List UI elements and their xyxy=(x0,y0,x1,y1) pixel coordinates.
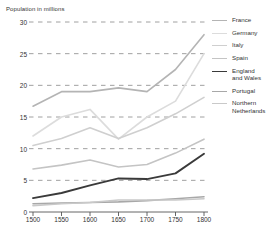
x-axis-tick-label: 1550 xyxy=(54,216,68,223)
legend-item[interactable]: Portugal xyxy=(212,87,280,94)
legend-item[interactable]: France xyxy=(212,16,280,23)
legend-swatch-line-icon xyxy=(212,45,227,46)
y-axis-tick-label: 10 xyxy=(20,145,27,152)
y-axis-tick-label: 25 xyxy=(20,50,27,57)
x-axis-tick-label: 1650 xyxy=(111,216,125,223)
y-axis-tick-label: 20 xyxy=(20,82,27,89)
plot-area xyxy=(33,22,204,212)
plot-svg xyxy=(33,22,204,212)
legend: FranceGermanyItalySpainEngland and Wales… xyxy=(212,16,280,119)
legend-item[interactable]: England and Wales xyxy=(212,67,280,81)
series-line-spain xyxy=(33,139,204,169)
y-axis-tick-label: 0 xyxy=(23,209,27,216)
legend-label: Spain xyxy=(232,54,248,61)
legend-swatch-line-icon xyxy=(212,71,227,72)
legend-item[interactable]: Spain xyxy=(212,54,280,61)
legend-swatch-line-icon xyxy=(212,33,227,34)
legend-swatch-line-icon xyxy=(212,20,227,21)
x-axis-tick-label: 1800 xyxy=(197,216,211,223)
legend-label: England and Wales xyxy=(232,67,261,81)
series-line-england-and-wales xyxy=(33,154,204,198)
population-line-chart: Population in millions 051015202530 1500… xyxy=(0,0,280,242)
x-axis-tick-labels: 1500155016001650170017501800 xyxy=(33,216,204,234)
legend-swatch-line-icon xyxy=(212,103,227,104)
y-axis-tick-label: 15 xyxy=(20,114,27,121)
y-axis-tick-label: 5 xyxy=(23,177,27,184)
legend-item[interactable]: Germany xyxy=(212,29,280,36)
legend-label: Germany xyxy=(232,29,257,36)
y-axis-tick-label: 30 xyxy=(20,19,27,26)
legend-item[interactable]: Northern Netherlands xyxy=(212,99,280,113)
legend-label: Italy xyxy=(232,41,243,48)
legend-item[interactable]: Italy xyxy=(212,41,280,48)
y-axis-tick-labels: 051015202530 xyxy=(0,22,30,212)
legend-swatch-line-icon xyxy=(212,58,227,59)
legend-label: France xyxy=(232,16,251,23)
legend-swatch-line-icon xyxy=(212,91,227,92)
series-line-italy xyxy=(33,97,204,145)
x-axis-tick-label: 1500 xyxy=(26,216,40,223)
legend-label: Portugal xyxy=(232,87,255,94)
legend-label: Northern Netherlands xyxy=(232,99,265,113)
x-axis-tick-label: 1750 xyxy=(168,216,182,223)
x-axis-tick-label: 1600 xyxy=(83,216,97,223)
x-axis-tick-label: 1700 xyxy=(140,216,154,223)
y-axis-title: Population in millions xyxy=(6,6,65,12)
